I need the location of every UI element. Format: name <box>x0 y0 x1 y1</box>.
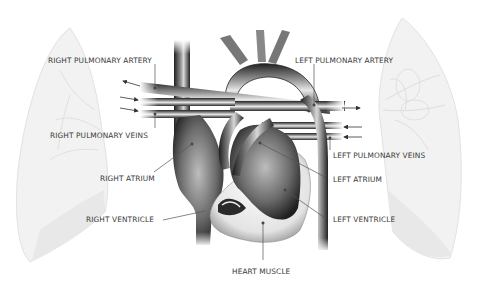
label-left-ventricle: LEFT VENTRICLE <box>333 216 395 223</box>
left-side-arrows <box>342 108 362 137</box>
right-side-arrows <box>120 81 140 111</box>
label-heart-muscle: HEART MUSCLE <box>232 268 290 275</box>
heart-diagram <box>0 0 491 289</box>
label-left-pulmonary-veins: LEFT PULMONARY VEINS <box>333 152 425 159</box>
label-right-pulmonary-artery: RIGHT PULMONARY ARTERY <box>48 57 152 64</box>
label-left-atrium: LEFT ATRIUM <box>333 176 382 183</box>
label-right-pulmonary-veins: RIGHT PULMONARY VEINS <box>50 132 148 139</box>
label-right-atrium: RIGHT ATRIUM <box>100 175 155 182</box>
label-left-pulmonary-artery: LEFT PULMONARY ARTERY <box>295 57 393 64</box>
label-right-ventricle: RIGHT VENTRICLE <box>86 216 154 223</box>
